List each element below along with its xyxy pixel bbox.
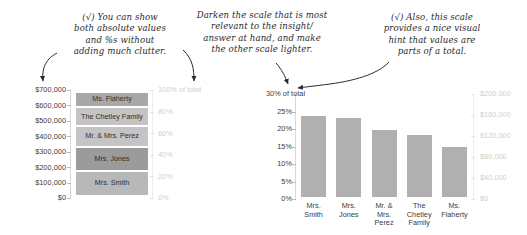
annotation-left: (√) You can show both absolute values an… bbox=[46, 12, 194, 58]
percent-tick-mark bbox=[150, 198, 154, 199]
bar[interactable] bbox=[372, 130, 397, 197]
dollar-tick-label: $300,000 bbox=[35, 147, 66, 156]
dollar-tick-label: $200,000 bbox=[480, 89, 511, 98]
bar[interactable] bbox=[336, 118, 361, 197]
dollar-tick-label: $700,000 bbox=[35, 85, 66, 94]
dollar-tick-label: $80,000 bbox=[480, 152, 507, 161]
percent-tick-label: 0% bbox=[158, 193, 169, 202]
dollar-tick-label: $120,000 bbox=[480, 131, 511, 140]
dollar-tick-label: $40,000 bbox=[480, 173, 507, 182]
percent-tick-label: 20% bbox=[158, 172, 173, 181]
stack-segment[interactable]: Mrs. Jones bbox=[76, 147, 148, 171]
stacked-bar[interactable]: Ms. FlahertyThe Chetley FamilyMr. & Mrs.… bbox=[76, 92, 148, 196]
right-chart-dollar-axis-line bbox=[473, 94, 474, 199]
dollar-tick-mark bbox=[67, 90, 71, 91]
dollar-tick-mark bbox=[67, 121, 71, 122]
percent-tick-label: 20% bbox=[268, 124, 292, 133]
stack-segment[interactable]: The Chetley Family bbox=[76, 107, 148, 126]
bar[interactable] bbox=[407, 135, 432, 197]
dollar-tick-mark bbox=[67, 183, 71, 184]
percent-tick-label: 60% bbox=[158, 129, 173, 138]
dollar-tick-mark bbox=[67, 167, 71, 168]
percent-tick-mark bbox=[292, 94, 296, 95]
bar[interactable] bbox=[442, 147, 467, 197]
percent-tick-label: 25% bbox=[268, 107, 292, 116]
arrow-to-scale-emphasis bbox=[276, 63, 288, 84]
stack-segment[interactable]: Mrs. Smith bbox=[76, 171, 148, 196]
dollar-tick-mark bbox=[471, 199, 475, 200]
dollar-tick-label: $100,000 bbox=[35, 178, 66, 187]
bar[interactable] bbox=[301, 116, 326, 197]
percent-donor-chart: 30% of total25%20%15%10%5%0% $200,000$16… bbox=[268, 84, 527, 235]
percent-tick-mark bbox=[150, 176, 154, 177]
percent-tick-label: 80% bbox=[158, 107, 173, 116]
percent-tick-mark bbox=[150, 112, 154, 113]
dollar-tick-label: $400,000 bbox=[35, 132, 66, 141]
percent-tick-label: 5% bbox=[268, 177, 292, 186]
annotation-right: (√) Also, this scale provides a nice vis… bbox=[352, 12, 512, 58]
stack-segment[interactable]: Mr. & Mrs. Perez bbox=[76, 126, 148, 146]
dollar-tick-mark bbox=[471, 94, 475, 95]
stack-segment[interactable]: Ms. Flaherty bbox=[76, 92, 148, 107]
percent-tick-label: 10% bbox=[268, 159, 292, 168]
stacked-donor-chart: $700,000$600,000$500,000$400,000$300,000… bbox=[0, 84, 230, 212]
category-label: Mrs. Jones bbox=[331, 202, 367, 219]
percent-tick-label: 0% bbox=[268, 194, 292, 203]
dollar-tick-label: $200,000 bbox=[35, 163, 66, 172]
dollar-tick-label: $0 bbox=[480, 194, 488, 203]
dollar-tick-label: $0 bbox=[58, 193, 66, 202]
percent-tick-label: 100% of total bbox=[158, 85, 201, 94]
slide-canvas: (√) You can show both absolute values an… bbox=[0, 0, 527, 235]
dollar-tick-mark bbox=[67, 152, 71, 153]
bar-plot-area bbox=[296, 96, 472, 197]
percent-tick-mark bbox=[150, 155, 154, 156]
dollar-tick-label: $160,000 bbox=[480, 110, 511, 119]
dollar-tick-label: $600,000 bbox=[35, 101, 66, 110]
percent-tick-mark bbox=[150, 133, 154, 134]
category-label: Ms. Flaherty bbox=[436, 202, 472, 219]
percent-tick-label: 40% bbox=[158, 150, 173, 159]
dollar-tick-mark bbox=[67, 136, 71, 137]
category-label: Mr. & Mrs. Perez bbox=[366, 202, 402, 228]
dollar-tick-label: $500,000 bbox=[35, 116, 66, 125]
annotation-middle: Darken the scale that is most relevant t… bbox=[178, 10, 346, 56]
category-label: The Chetley Family bbox=[401, 202, 437, 228]
dollar-tick-mark bbox=[67, 105, 71, 106]
left-chart-percent-axis-line bbox=[152, 90, 153, 198]
percent-tick-mark bbox=[150, 90, 154, 91]
percent-tick-label: 15% bbox=[268, 142, 292, 151]
percent-tick-mark bbox=[292, 199, 296, 200]
dollar-tick-mark bbox=[67, 198, 71, 199]
category-label: Mrs. Smith bbox=[296, 202, 332, 219]
